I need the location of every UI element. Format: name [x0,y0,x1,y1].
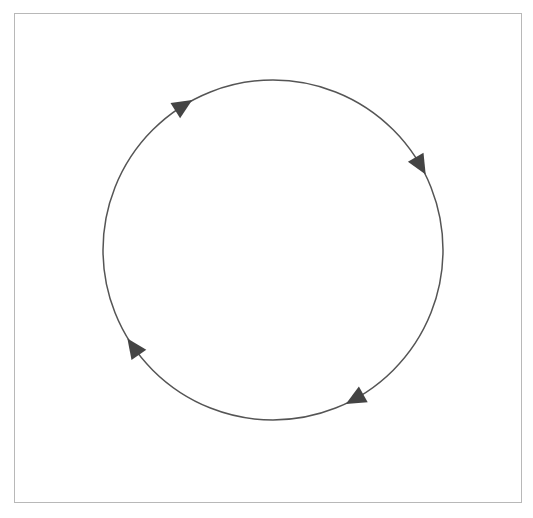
arrow-right-icon [408,153,426,175]
arrow-top-left-icon [171,100,193,118]
arrow-left-icon [127,339,146,361]
cycle-diagram [0,0,533,518]
arrow-bottom-right-icon [346,387,368,405]
cycle-circle [103,80,443,420]
arrowheads [127,100,425,404]
